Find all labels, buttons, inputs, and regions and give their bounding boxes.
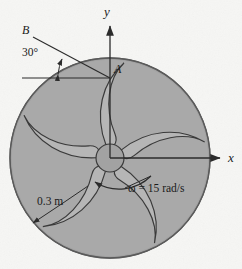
label-point-b: B: [22, 23, 30, 37]
label-x-axis: x: [227, 150, 234, 165]
mechanics-diagram-svg: y x A B 30° 0.3 m ω = 15 rad/s: [0, 0, 242, 269]
label-angle-30: 30°: [22, 46, 39, 58]
label-radius: 0.3 m: [37, 195, 63, 207]
label-point-a: A: [113, 62, 122, 76]
label-y-axis: y: [102, 4, 110, 19]
label-angular-velocity: ω = 15 rad/s: [128, 182, 185, 194]
figure-container: y x A B 30° 0.3 m ω = 15 rad/s: [0, 0, 242, 269]
